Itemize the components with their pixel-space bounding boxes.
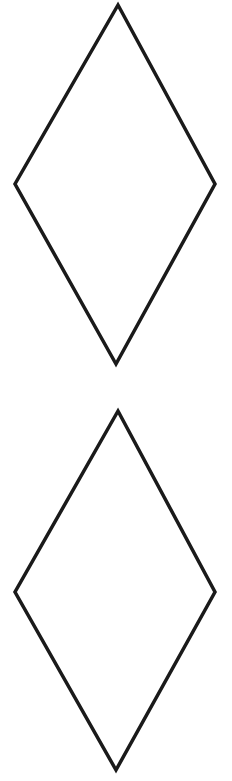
diamond-drawing xyxy=(0,0,232,781)
diamond-outline-top xyxy=(15,5,215,364)
canvas xyxy=(0,0,232,781)
diamond-outline-bottom xyxy=(15,411,215,770)
